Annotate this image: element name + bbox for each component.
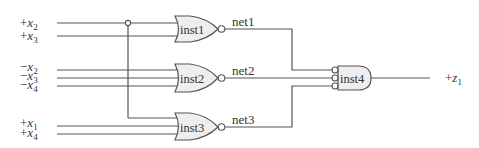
gate-label: inst4 bbox=[340, 72, 365, 86]
gate-inst1: inst1 bbox=[175, 16, 225, 42]
junction-dot bbox=[125, 20, 130, 25]
inverter-bubble-icon bbox=[332, 83, 338, 89]
inverter-bubble-icon bbox=[218, 26, 225, 33]
logic-circuit-diagram: +x2 +x3 −x2 −x3 −x4 +x1 +x4 inst1 inst2 … bbox=[0, 0, 479, 148]
net-label-net3: net3 bbox=[232, 112, 254, 127]
gate-inst4: inst4 bbox=[332, 66, 371, 90]
gate-inst3: inst3 bbox=[175, 113, 225, 140]
inverter-bubble-icon bbox=[332, 67, 338, 73]
inverter-bubble-icon bbox=[218, 75, 225, 82]
inverter-bubble-icon bbox=[332, 75, 338, 81]
gate-label: inst3 bbox=[180, 121, 204, 135]
output-label-plus-z1: +z1 bbox=[445, 70, 462, 87]
gate-label: inst1 bbox=[180, 23, 204, 37]
net-label-net2: net2 bbox=[232, 63, 254, 78]
net-label-net1: net1 bbox=[232, 14, 254, 29]
gate-label: inst2 bbox=[180, 72, 204, 86]
inverter-bubble-icon bbox=[218, 124, 225, 131]
gate-inst2: inst2 bbox=[175, 64, 225, 92]
